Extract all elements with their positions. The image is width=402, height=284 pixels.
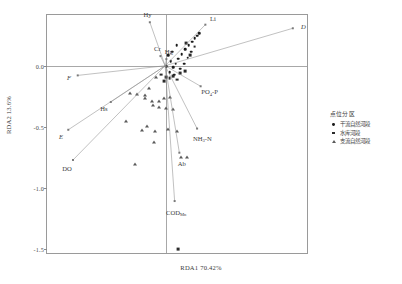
y-axis-title: RDA2 13.6% xyxy=(5,96,12,134)
vector-label: D xyxy=(301,22,306,29)
square-marker-icon xyxy=(330,132,337,135)
vector-arrowhead xyxy=(67,129,69,131)
vector-arrowhead xyxy=(204,24,206,26)
vector-label: CODMn xyxy=(166,208,186,215)
vector-arrow xyxy=(73,66,165,160)
vector-arrow xyxy=(165,28,293,65)
x-axis-title: RDA1 70.42% xyxy=(0,264,402,271)
vector-arrowhead xyxy=(72,159,74,161)
vector-arrow xyxy=(165,66,174,201)
y-tick-label: -0.5 xyxy=(33,124,44,131)
vector-arrow xyxy=(165,66,179,153)
vector-arrowhead xyxy=(149,21,151,23)
vector-arrow xyxy=(78,66,165,76)
vector-arrow-layer xyxy=(47,15,307,253)
rda-ordination-figure: RDA2 13.6% 0.0-0.5-1.0-1.5 DLiHyCrHgFHsE… xyxy=(0,0,402,284)
legend-rows: 干流自然河段水库河段支流自然河段 xyxy=(330,120,396,145)
vector-label: DO xyxy=(62,164,72,171)
vector-label: Cr xyxy=(154,45,161,52)
plot-area: 0.0-0.5-1.0-1.5 DLiHyCrHgFHsEDOPO4-PNH3-… xyxy=(46,14,308,254)
vector-label: PO4-P xyxy=(201,88,218,95)
vector-arrowhead xyxy=(159,55,161,57)
vector-arrowhead xyxy=(292,27,294,29)
vector-label: Li xyxy=(210,15,216,22)
legend-item-label: 水库河段 xyxy=(340,129,360,137)
circle-marker-icon xyxy=(330,123,337,126)
vector-arrowhead xyxy=(77,74,79,76)
vector-label: Hg xyxy=(165,47,173,54)
vector-arrowhead xyxy=(196,128,198,130)
y-tick-label: 0.0 xyxy=(36,63,44,70)
vector-arrowhead xyxy=(178,152,180,154)
vector-label: NH3-N xyxy=(193,134,212,141)
legend-item[interactable]: 水库河段 xyxy=(330,129,396,137)
legend: 点位分区 干流自然河段水库河段支流自然河段 xyxy=(330,110,396,146)
vector-arrowhead xyxy=(165,58,167,60)
vector-label: Hy xyxy=(144,10,152,17)
vector-label: F xyxy=(67,73,71,80)
triangle-marker-icon xyxy=(330,140,337,143)
vector-label: E xyxy=(59,132,63,139)
legend-item-label: 支流自然河段 xyxy=(340,137,370,145)
legend-item[interactable]: 支流自然河段 xyxy=(330,137,396,145)
y-tick-label: -1.5 xyxy=(33,245,44,252)
vector-arrow xyxy=(160,56,165,66)
vector-arrow xyxy=(68,66,165,130)
vector-label: Ab xyxy=(178,159,186,166)
vector-arrowhead xyxy=(174,200,176,202)
vector-label: Hs xyxy=(100,104,107,111)
legend-item[interactable]: 干流自然河段 xyxy=(330,120,396,128)
legend-item-label: 干流自然河段 xyxy=(340,120,370,128)
legend-title: 点位分区 xyxy=(330,110,396,119)
y-tick-label: -1.0 xyxy=(33,184,44,191)
